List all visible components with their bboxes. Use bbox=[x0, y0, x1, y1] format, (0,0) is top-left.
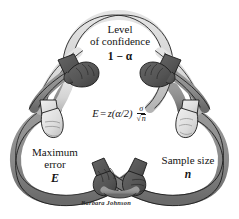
formula-sample-size-error: E = z(α/2) σ √n bbox=[69, 105, 171, 123]
artist-signature: Barbara Johnson bbox=[62, 199, 150, 206]
samplesize-symbol: n bbox=[148, 168, 228, 181]
arm-band-bottom-link bbox=[104, 190, 136, 195]
confidence-line-2: of confidence bbox=[77, 35, 163, 47]
label-level-of-confidence: Level of confidence 1 − α bbox=[77, 23, 163, 63]
formula-numerator: σ bbox=[137, 105, 145, 114]
samplesize-line-1: Sample size bbox=[148, 154, 228, 166]
confidence-line-1: Level bbox=[77, 23, 163, 35]
label-maximum-error: Maximum error E bbox=[16, 146, 94, 185]
statistics-concept-diagram: Level of confidence 1 − α Maximum error … bbox=[0, 0, 239, 219]
formula-denominator: √n bbox=[134, 114, 147, 123]
radicand: n bbox=[141, 114, 146, 123]
formula-lhs: E bbox=[92, 108, 98, 120]
label-sample-size: Sample size n bbox=[148, 154, 228, 181]
formula-fraction: σ √n bbox=[134, 105, 147, 123]
formula-z-term: z(α/2) bbox=[108, 108, 133, 120]
maxerror-line-2: error bbox=[16, 158, 94, 170]
maxerror-line-1: Maximum bbox=[16, 146, 94, 158]
formula-equals: = bbox=[100, 108, 107, 120]
maxerror-symbol: E bbox=[16, 172, 94, 185]
confidence-symbol: 1 − α bbox=[77, 50, 163, 63]
